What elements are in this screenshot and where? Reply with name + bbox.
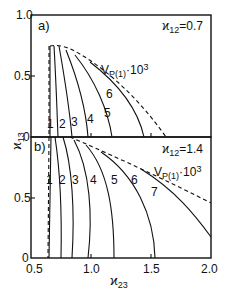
- svg-text:ϰ13: ϰ13: [9, 132, 26, 150]
- panel-b-curve-6: [101, 152, 155, 258]
- y-tick-label-1.0: 1.0: [16, 8, 33, 22]
- panel-b-curve-label-7: 7: [151, 185, 158, 199]
- x-tick-label-2.0: 2.0: [201, 262, 218, 276]
- panel-a-curve-label-3: 3: [71, 115, 78, 129]
- panel-a-curve-label-5: 5: [104, 106, 111, 120]
- panel-b-curve-5: [86, 145, 114, 258]
- panel-a-param: ϰ12=0.7: [162, 19, 203, 35]
- panel-b-curve-1: [49, 137, 51, 258]
- figure: 1.0 0.5 0 0.5 0 0.5 1.0 1.5 2.0 ϰ23 ϰ13 …: [0, 0, 226, 294]
- x-tick-label-0.5: 0.5: [26, 262, 43, 276]
- y-axis-label: ϰ13: [9, 132, 26, 150]
- panel-b-curve-label-2: 2: [59, 173, 66, 187]
- panel-b-curve-label-3: 3: [72, 173, 79, 187]
- panel-a-envelope-label: VP(1)·103: [101, 62, 148, 79]
- panel-b-param: ϰ12=1.4: [162, 142, 203, 158]
- panel-b-curve-label-5: 5: [111, 173, 118, 187]
- panel-b-envelope-label: VP(1)·103: [154, 164, 201, 181]
- panel-b-curve-4: [74, 140, 90, 258]
- panel-a-curve-label-6: 6: [106, 87, 113, 101]
- panel-a-curve-label-2: 2: [59, 117, 66, 131]
- panel-b-curve-label-4: 4: [90, 173, 97, 187]
- panel-b-label: b): [34, 139, 46, 154]
- panel-a-curve-2: [54, 46, 58, 137]
- panel-a-label: a): [38, 18, 50, 33]
- panel-a-curve-label-1: 1: [47, 117, 54, 131]
- panel-b-curve-label-6: 6: [131, 173, 138, 187]
- panel-b-curve-3: [63, 137, 73, 258]
- panel-a-curve-label-4: 4: [87, 112, 94, 126]
- x-tick-label-1.0: 1.0: [83, 262, 100, 276]
- y-tick-label-b-0.5: 0.5: [14, 191, 31, 205]
- chart-svg: 1.0 0.5 0 0.5 0 0.5 1.0 1.5 2.0 ϰ23 ϰ13 …: [0, 0, 226, 294]
- x-tick-label-1.5: 1.5: [143, 262, 160, 276]
- panel-b-curve-label-1: 1: [46, 173, 53, 187]
- panel-b-curve-2: [55, 137, 61, 258]
- x-axis-label: ϰ23: [110, 273, 128, 290]
- y-tick-label-0.5: 0.5: [14, 69, 31, 83]
